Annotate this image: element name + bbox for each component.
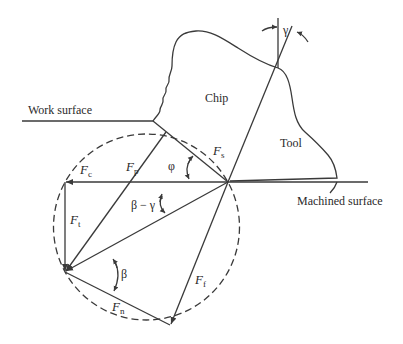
chip-label: Chip	[205, 92, 228, 104]
force-circle-diagram	[0, 0, 403, 344]
fc-label: Fc	[80, 163, 92, 179]
rake-face-line	[228, 26, 292, 182]
work-surface-label: Work surface	[28, 104, 92, 116]
phi-arc-arrow-top	[188, 156, 193, 164]
tool-label: Tool	[280, 137, 302, 149]
fs-label: Fs	[213, 144, 224, 160]
gamma-arrow-right	[297, 32, 308, 42]
machined-surface-label: Machined surface	[297, 195, 383, 207]
beta-label: β	[121, 268, 127, 280]
machined-surface-leader	[330, 182, 337, 193]
tool-outline	[230, 68, 337, 181]
ff-label: Ff	[195, 273, 206, 289]
gamma-arrow-left	[262, 27, 277, 31]
fn-label: Fn	[112, 300, 124, 316]
gamma-label: γ	[283, 24, 288, 36]
ft-label: Ft	[70, 213, 80, 229]
beta-minus-gamma-label: β − γ	[131, 199, 155, 211]
resultant-vector	[66, 182, 228, 271]
fp-label: Fp	[126, 160, 138, 176]
phi-label: φ	[168, 160, 175, 172]
